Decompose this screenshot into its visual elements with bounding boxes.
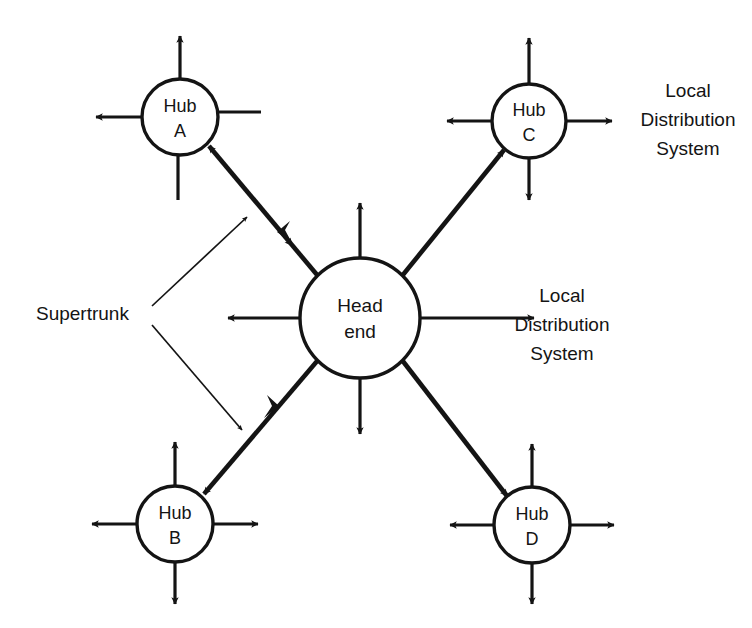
local-distribution-top-line3: System (656, 138, 719, 159)
node-hub-b-label-line1: Hub (158, 503, 191, 523)
supertrunk-headend-hub-d (402, 360, 507, 496)
node-hub-d-label-line2: D (526, 529, 539, 549)
node-hub-c-circle[interactable] (492, 84, 566, 158)
local-distribution-middle-line2: Distribution (514, 314, 609, 335)
supertrunk-leader-lower (152, 325, 242, 430)
node-head-end-circle[interactable] (300, 258, 420, 378)
node-hub-a-label-line2: A (174, 121, 186, 141)
local-distribution-middle-line3: System (530, 343, 593, 364)
node-head-end-label-line1: Head (337, 295, 382, 316)
network-diagram: Head end Hub A Hub B Hub C Hub D Supertr… (0, 0, 752, 628)
node-head-end-label-line2: end (344, 321, 376, 342)
local-distribution-top-line2: Distribution (640, 109, 735, 130)
supertrunk-headend-hub-c (402, 150, 504, 276)
supertrunk-leader-upper (152, 217, 247, 306)
node-hub-a-circle[interactable] (142, 79, 218, 155)
supertrunk-a-mid-arrowhead (277, 221, 292, 243)
supertrunk-leader-lines (152, 217, 247, 430)
node-hub-b-label-line2: B (169, 528, 181, 548)
node-hub-c-label-line1: Hub (512, 100, 545, 120)
node-hub-d-label-line1: Hub (515, 504, 548, 524)
node-hub-d-circle[interactable] (494, 487, 570, 563)
supertrunk-label: Supertrunk (36, 303, 129, 324)
node-hub-c-label-line2: C (523, 125, 536, 145)
supertrunk-headend-hub-a (209, 146, 318, 276)
local-distribution-middle-line1: Local (539, 285, 584, 306)
node-hub-b-circle[interactable] (137, 486, 213, 562)
supertrunk-headend-hub-b (204, 360, 318, 494)
diagram-canvas: Head end Hub A Hub B Hub C Hub D Supertr… (0, 0, 752, 628)
local-distribution-top-line1: Local (665, 80, 710, 101)
node-hub-a-label-line1: Hub (163, 96, 196, 116)
